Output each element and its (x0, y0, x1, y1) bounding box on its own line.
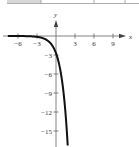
y-axis-label: y (53, 11, 58, 19)
x-axis-arrow-icon (119, 34, 126, 38)
y-tick-label: −9 (45, 90, 53, 98)
function-graph: xy −6−3369−3−6−9−12−15 (0, 0, 139, 147)
x-tick-label: −3 (33, 40, 41, 48)
y-tick-label: −6 (45, 71, 53, 79)
axes: xy (3, 11, 133, 147)
exponential-curve (8, 36, 68, 145)
x-tick-label: 6 (92, 40, 96, 48)
x-axis-label: x (128, 33, 133, 41)
table-fragment (7, 0, 139, 4)
y-axis-arrow-icon (54, 20, 58, 27)
x-tick-label: 3 (73, 40, 77, 48)
shaded-table-cell (7, 0, 41, 3)
tick-labels: −6−3369−3−6−9−12−15 (14, 40, 115, 136)
y-tick-label: −12 (41, 109, 52, 117)
x-tick-label: −6 (14, 40, 22, 48)
x-tick-label: 9 (111, 40, 115, 48)
y-tick-label: −15 (41, 128, 52, 136)
y-tick-label: −3 (45, 52, 53, 60)
